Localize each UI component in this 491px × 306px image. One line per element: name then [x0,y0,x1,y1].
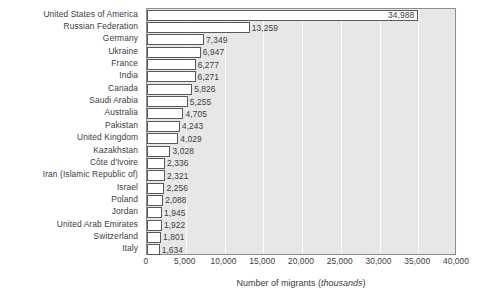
bar: 4,243 [147,121,180,132]
category-label: Switzerland [0,232,138,241]
category-label: United Kingdom [0,133,138,142]
x-axis-title-unit: thousands [321,278,363,288]
migrants-bar-chart: United States of AmericaRussian Federati… [0,0,491,306]
bar: 1,801 [147,232,161,243]
x-axis-title-close: ) [363,278,366,288]
bar-row: 2,336 [147,158,457,169]
bar-row: 1,801 [147,232,457,243]
bar-row: 4,705 [147,108,457,119]
category-label: Ukraine [0,47,138,56]
x-tick-label: 40,000 [443,256,469,266]
bar: 2,256 [147,183,164,194]
bar: 6,947 [147,47,201,58]
bar-value-label: 13,259 [252,23,278,32]
bar-value-label: 1,634 [162,245,183,254]
category-label: Israel [0,183,138,192]
bar-value-label: 34,988 [388,11,414,20]
bar: 6,271 [147,71,196,82]
gridline [457,9,458,254]
bar-row: 2,321 [147,170,457,181]
category-label: Italy [0,244,138,253]
plot-area: 34,98813,2597,3496,9476,2776,2715,8265,2… [146,8,456,255]
category-label: United Arab Emirates [0,220,138,229]
x-tick-label: 0 [144,256,149,266]
bar-value-label: 6,947 [203,48,224,57]
bar-row: 5,255 [147,96,457,107]
bar-value-label: 2,088 [165,196,186,205]
bar-row: 4,029 [147,133,457,144]
bar-value-label: 5,255 [190,97,211,106]
bar-row: 6,947 [147,47,457,58]
bar-row: 5,826 [147,84,457,95]
bar-value-label: 7,349 [206,35,227,44]
category-label: France [0,59,138,68]
bar-row: 34,988 [147,10,457,21]
bar-row: 1,945 [147,207,457,218]
bar-row: 4,243 [147,121,457,132]
x-tick-label: 20,000 [288,256,314,266]
bar-row: 6,277 [147,59,457,70]
bar: 3,028 [147,146,170,157]
category-label: India [0,71,138,80]
x-axis-title-text: Number of migrants ( [236,278,321,288]
bar-value-label: 4,705 [185,109,206,118]
bar-value-label: 6,271 [198,72,219,81]
x-tick-label: 30,000 [365,256,391,266]
x-tick-label: 5,000 [174,256,195,266]
bar-value-label: 1,801 [163,233,184,242]
x-tick-label: 25,000 [327,256,353,266]
category-label: Jordan [0,207,138,216]
bar-value-label: 3,028 [172,147,193,156]
category-label: Iran (Islamic Republic of) [0,170,138,179]
bar: 6,277 [147,59,196,70]
bar: 2,336 [147,158,165,169]
category-label: Kazakhstan [0,146,138,155]
x-tick-label: 10,000 [210,256,236,266]
x-tick-label: 15,000 [249,256,275,266]
bar-row: 1,922 [147,220,457,231]
bar: 5,255 [147,96,188,107]
bar-value-label: 2,256 [166,184,187,193]
category-label: Saudi Arabia [0,96,138,105]
bar: 4,029 [147,133,178,144]
bar-value-label: 5,826 [194,85,215,94]
category-label: Russian Federation [0,22,138,31]
bar-row: 2,256 [147,183,457,194]
bar-value-label: 2,321 [167,171,188,180]
category-label: Germany [0,34,138,43]
bar: 2,321 [147,170,165,181]
bar-row: 13,259 [147,22,457,33]
bar: 13,259 [147,22,250,33]
bar-row: 2,088 [147,195,457,206]
bar: 1,945 [147,207,162,218]
bar: 5,826 [147,84,192,95]
x-tick-label: 35,000 [404,256,430,266]
bar-value-label: 1,922 [164,221,185,230]
bar-row: 7,349 [147,34,457,45]
category-label: Australia [0,108,138,117]
category-label: Pakistan [0,121,138,130]
x-axis-tick-labels: 05,00010,00015,00020,00025,00030,00035,0… [146,256,456,270]
x-axis-title: Number of migrants (thousands) [146,278,456,288]
category-label: Canada [0,84,138,93]
bar-value-label: 1,945 [164,208,185,217]
bar-value-label: 2,336 [167,159,188,168]
bar-value-label: 4,029 [180,134,201,143]
bar-value-label: 4,243 [182,122,203,131]
bar-value-label: 6,277 [198,60,219,69]
bar: 1,922 [147,220,162,231]
bar: 1,634 [147,244,160,255]
category-label: Côte d'Ivoire [0,158,138,167]
bar-row: 1,634 [147,244,457,255]
category-label: United States of America [0,10,138,19]
bar-row: 6,271 [147,71,457,82]
category-axis-labels: United States of AmericaRussian Federati… [0,8,142,255]
bar: 34,988 [147,10,418,21]
bar: 2,088 [147,195,163,206]
category-label: Poland [0,195,138,204]
bar-row: 3,028 [147,146,457,157]
bar: 4,705 [147,108,183,119]
bar: 7,349 [147,34,204,45]
